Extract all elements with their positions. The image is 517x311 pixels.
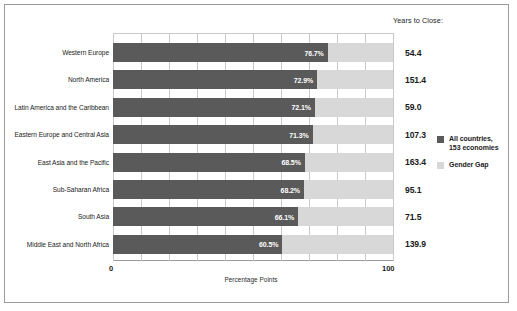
gridline xyxy=(365,33,366,261)
bar-segment-all-countries[interactable]: 66.1% xyxy=(113,207,298,226)
years-to-close-value: 95.1 xyxy=(405,185,421,195)
category-label: North America xyxy=(0,76,109,83)
gridline xyxy=(309,33,310,261)
bar-row[interactable]: Eastern Europe and Central Asia71.3%107.… xyxy=(113,125,393,144)
years-to-close-header: Years to Close: xyxy=(393,16,443,25)
years-to-close-wrap: 95.1 xyxy=(405,180,449,199)
chart-frame: Years to Close: Western Europe76.7%54.4N… xyxy=(4,4,509,303)
category-label: South Asia xyxy=(0,213,109,220)
bar-segment-all-countries[interactable]: 72.1% xyxy=(113,98,315,117)
plot-area: Western Europe76.7%54.4North America72.9… xyxy=(109,33,393,261)
years-to-close-wrap: 71.5 xyxy=(405,207,449,226)
bar-row[interactable]: East Asia and the Pacific68.5%163.4 xyxy=(113,153,393,172)
years-to-close-value: 107.3 xyxy=(405,130,426,140)
category-label: East Asia and the Pacific xyxy=(0,159,109,166)
legend-item[interactable]: All countries,153 economies xyxy=(437,135,515,152)
legend-swatch-gender-gap xyxy=(437,162,444,169)
years-to-close-wrap: 139.9 xyxy=(405,235,449,254)
bar-segment-all-countries[interactable]: 72.9% xyxy=(113,70,317,89)
legend-item[interactable]: Gender Gap xyxy=(437,161,515,171)
bar-row[interactable]: Latin America and the Caribbean72.1%59.0 xyxy=(113,98,393,117)
years-to-close-value: 163.4 xyxy=(405,157,426,167)
category-label: Eastern Europe and Central Asia xyxy=(0,131,109,138)
bar-segment-gender-gap[interactable] xyxy=(313,125,393,144)
gridline xyxy=(169,33,170,261)
legend-label-line2: 153 economies xyxy=(449,144,515,153)
bar-value-label: 60.5% xyxy=(259,241,278,248)
legend-label: All countries, xyxy=(449,135,515,144)
category-label: Western Europe xyxy=(0,49,109,56)
category-label-wrap: Western Europe xyxy=(0,43,109,62)
gridline xyxy=(113,33,114,261)
gridline xyxy=(197,33,198,261)
bar-segment-all-countries[interactable]: 68.2% xyxy=(113,180,304,199)
bar-value-label: 72.9% xyxy=(294,76,313,83)
x-axis-tick-min: 0 xyxy=(109,264,113,273)
bar-value-label: 72.1% xyxy=(292,104,311,111)
category-label: Sub-Saharan Africa xyxy=(0,186,109,193)
gridline xyxy=(337,33,338,261)
bar-segment-gender-gap[interactable] xyxy=(298,207,393,226)
years-to-close-wrap: 59.0 xyxy=(405,98,449,117)
category-label-wrap: East Asia and the Pacific xyxy=(0,153,109,172)
category-label-wrap: North America xyxy=(0,70,109,89)
x-axis-tick-max: 100 xyxy=(382,264,395,273)
years-to-close-value: 54.4 xyxy=(405,48,421,58)
bar-row[interactable]: North America72.9%151.4 xyxy=(113,70,393,89)
years-to-close-wrap: 54.4 xyxy=(405,43,449,62)
years-to-close-wrap: 151.4 xyxy=(405,70,449,89)
category-label-wrap: South Asia xyxy=(0,207,109,226)
gridline xyxy=(253,33,254,261)
bar-value-label: 66.1% xyxy=(275,213,294,220)
gridline xyxy=(141,33,142,261)
bar-segment-gender-gap[interactable] xyxy=(328,43,393,62)
bar-value-label: 68.2% xyxy=(281,186,300,193)
category-label-wrap: Latin America and the Caribbean xyxy=(0,98,109,117)
gridline xyxy=(281,33,282,261)
bar-segment-gender-gap[interactable] xyxy=(304,180,393,199)
bar-row[interactable]: South Asia66.1%71.5 xyxy=(113,207,393,226)
category-label-wrap: Middle East and North Africa xyxy=(0,235,109,254)
x-axis-title: Percentage Points xyxy=(109,276,393,283)
bar-segment-gender-gap[interactable] xyxy=(317,70,393,89)
chart-legend: All countries,153 economiesGender Gap xyxy=(437,135,515,180)
gridline xyxy=(393,33,394,261)
category-label-wrap: Eastern Europe and Central Asia xyxy=(0,125,109,144)
bar-row[interactable]: Sub-Saharan Africa68.2%95.1 xyxy=(113,180,393,199)
legend-swatch-all-countries xyxy=(437,136,444,143)
plot-inner: Western Europe76.7%54.4North America72.9… xyxy=(113,33,393,261)
bar-row[interactable]: Middle East and North Africa60.5%139.9 xyxy=(113,235,393,254)
bar-segment-gender-gap[interactable] xyxy=(282,235,393,254)
category-label-wrap: Sub-Saharan Africa xyxy=(0,180,109,199)
bar-segment-all-countries[interactable]: 60.5% xyxy=(113,235,282,254)
bar-row[interactable]: Western Europe76.7%54.4 xyxy=(113,43,393,62)
category-label: Latin America and the Caribbean xyxy=(0,104,109,111)
bar-segment-all-countries[interactable]: 71.3% xyxy=(113,125,313,144)
years-to-close-value: 151.4 xyxy=(405,75,426,85)
category-label: Middle East and North Africa xyxy=(0,241,109,248)
years-to-close-value: 59.0 xyxy=(405,102,421,112)
years-to-close-value: 139.9 xyxy=(405,239,426,249)
gridline xyxy=(225,33,226,261)
bar-segment-gender-gap[interactable] xyxy=(305,153,393,172)
bar-segment-all-countries[interactable]: 76.7% xyxy=(113,43,328,62)
bar-value-label: 71.3% xyxy=(289,131,308,138)
legend-label: Gender Gap xyxy=(449,161,515,170)
bar-value-label: 68.5% xyxy=(281,159,300,166)
bar-value-label: 76.7% xyxy=(304,49,323,56)
bar-segment-gender-gap[interactable] xyxy=(315,98,393,117)
bar-segment-all-countries[interactable]: 68.5% xyxy=(113,153,305,172)
years-to-close-value: 71.5 xyxy=(405,212,421,222)
